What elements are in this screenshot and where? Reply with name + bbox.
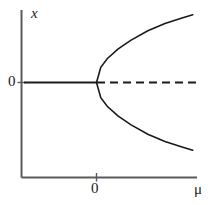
upper-stable-branch-curve <box>97 15 193 83</box>
lower-stable-branch-curve <box>97 83 193 151</box>
x-axis-variable-label: μ <box>194 182 202 197</box>
bifurcation-plot-canvas <box>0 0 211 205</box>
y-axis-variable-label: x <box>31 6 38 21</box>
bifurcation-diagram-figure: x μ 0 0 <box>0 0 211 205</box>
x-axis-zero-tick-label: 0 <box>91 181 99 196</box>
y-axis-zero-tick-label: 0 <box>8 74 16 89</box>
